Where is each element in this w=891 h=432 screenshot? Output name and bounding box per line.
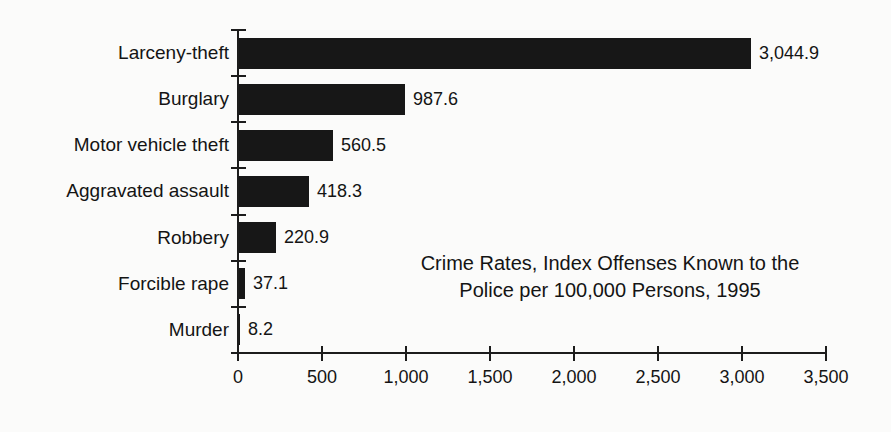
category-label: Motor vehicle theft: [0, 122, 229, 168]
category-label: Forcible rape: [0, 261, 229, 307]
category-label: Larceny-theft: [0, 30, 229, 76]
x-axis: [237, 352, 827, 354]
x-axis-tick-label: 500: [282, 367, 362, 388]
bar-chart: Crime Rates, Index Offenses Known to the…: [0, 0, 891, 432]
category-label: Robbery: [0, 215, 229, 261]
x-axis-tick: [321, 346, 323, 361]
bar: [239, 130, 333, 161]
category-label: Aggravated assault: [0, 168, 229, 214]
x-axis-tick: [741, 346, 743, 361]
x-axis-tick: [405, 346, 407, 361]
chart-title: Crime Rates, Index Offenses Known to the…: [395, 250, 825, 304]
y-axis-tick: [231, 29, 246, 31]
x-axis-tick: [573, 346, 575, 361]
x-axis-tick-label: 3,500: [786, 367, 866, 388]
bar: [239, 268, 245, 299]
y-axis-tick: [231, 167, 246, 169]
x-axis-tick: [657, 346, 659, 361]
y-axis-tick: [231, 121, 246, 123]
bar: [239, 314, 240, 345]
bar: [239, 176, 309, 207]
value-label: 987.6: [413, 84, 458, 115]
value-label: 3,044.9: [759, 38, 819, 69]
x-axis-tick-label: 1,500: [450, 367, 530, 388]
value-label: 418.3: [317, 176, 362, 207]
y-axis-tick: [231, 214, 246, 216]
chart-title-line-1: Crime Rates, Index Offenses Known to the: [395, 250, 825, 277]
x-axis-tick: [237, 346, 239, 361]
bar: [239, 84, 405, 115]
y-axis-tick: [231, 260, 246, 262]
chart-title-line-2: Police per 100,000 Persons, 1995: [395, 277, 825, 304]
x-axis-tick-label: 1,000: [366, 367, 446, 388]
category-label: Burglary: [0, 76, 229, 122]
x-axis-tick-label: 2,000: [534, 367, 614, 388]
x-axis-tick-label: 2,500: [618, 367, 698, 388]
x-axis-tick: [489, 346, 491, 361]
value-label: 37.1: [253, 268, 288, 299]
x-axis-tick-label: 3,000: [702, 367, 782, 388]
bar: [239, 222, 276, 253]
y-axis-tick: [231, 75, 246, 77]
y-axis-tick: [231, 306, 246, 308]
x-axis-tick-label: 0: [198, 367, 278, 388]
value-label: 220.9: [284, 222, 329, 253]
value-label: 8.2: [248, 314, 273, 345]
x-axis-tick: [825, 346, 827, 361]
value-label: 560.5: [341, 130, 386, 161]
bar: [239, 38, 751, 69]
category-label: Murder: [0, 307, 229, 353]
